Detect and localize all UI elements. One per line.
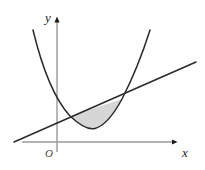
math-figure: y x O [0,0,205,170]
line-curve [14,62,196,142]
origin-label: O [45,147,53,159]
x-axis-label: x [181,145,188,160]
y-axis-label: y [43,10,51,25]
figure-canvas: y x O [0,0,205,170]
